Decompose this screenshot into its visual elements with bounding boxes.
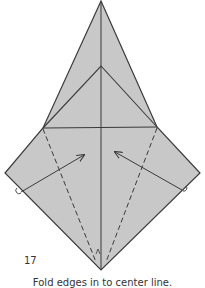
- step-caption: Fold edges in to center line.: [0, 277, 205, 288]
- paper-shape: [5, 1, 200, 270]
- step-number: 17: [24, 255, 37, 266]
